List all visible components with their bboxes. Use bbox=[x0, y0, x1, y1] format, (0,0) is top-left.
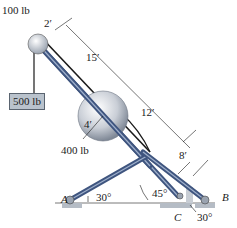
pin-c bbox=[177, 193, 183, 199]
support-c-label: C bbox=[174, 212, 181, 223]
ball-weight-label: 400 lb bbox=[61, 145, 89, 156]
support-a-label: A bbox=[61, 194, 68, 205]
dim-12-label: 12′ bbox=[141, 107, 154, 118]
pulley-weight-label: 100 lb bbox=[2, 5, 30, 16]
pulley-diameter-label: 2′ bbox=[44, 18, 52, 29]
hanging-weight-label: 500 lb bbox=[13, 95, 41, 107]
frame-drawing bbox=[0, 0, 237, 228]
hanging-weight-box: 500 lb bbox=[9, 93, 45, 110]
pin-b bbox=[201, 196, 209, 204]
angle-a-label: 30° bbox=[96, 192, 111, 203]
ball-radius-label: 4′ bbox=[84, 119, 92, 130]
angle-45-label: 45° bbox=[152, 188, 167, 199]
statics-figure: 100 lb 2′ 500 lb 15′ 12′ 8′ 4′ 400 lb A … bbox=[0, 0, 237, 228]
dim-15-label: 15′ bbox=[86, 52, 99, 63]
support-b-label: B bbox=[222, 192, 229, 203]
pulley bbox=[28, 34, 48, 54]
dim-8-label: 8′ bbox=[179, 150, 187, 161]
angle-b-label: 30° bbox=[197, 212, 212, 223]
